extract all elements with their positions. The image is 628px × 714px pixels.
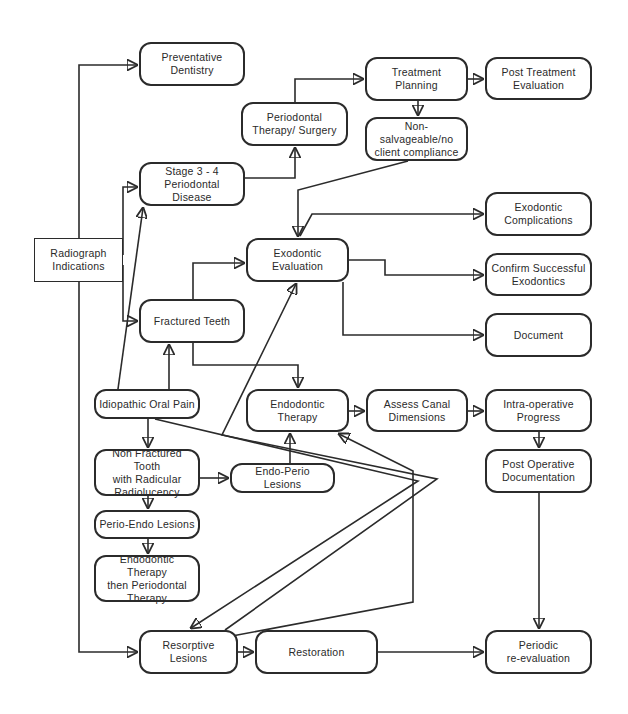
node-resorptive-lesions: Resorptive Lesions xyxy=(139,630,238,674)
node-intra-operative-progress: Intra-operative Progress xyxy=(485,389,592,432)
node-post-treatment-evaluation: Post Treatment Evaluation xyxy=(485,57,592,100)
node-endo-perio-lesions: Endo-Perio Lesions xyxy=(230,463,335,493)
node-radiograph-indications: Radiograph Indications xyxy=(34,238,123,282)
node-assess-canal-dimensions: Assess Canal Dimensions xyxy=(366,389,468,432)
node-preventative-dentistry: Preventative Dentistry xyxy=(139,42,245,86)
node-periodontal-therapy-surgery: Periodontal Therapy/ Surgery xyxy=(241,102,348,146)
dental-radiograph-flowchart: Preventative Dentistry Radiograph Indica… xyxy=(0,0,628,714)
node-non-fractured-tooth: Non Fractured Tooth with Radicular Radio… xyxy=(94,449,200,496)
node-idiopathic-oral-pain: Idiopathic Oral Pain xyxy=(94,389,200,419)
node-perio-endo-lesions: Perio-Endo Lesions xyxy=(94,510,200,539)
node-endodontic-therapy: Endodontic Therapy xyxy=(246,389,349,432)
node-fractured-teeth: Fractured Teeth xyxy=(139,299,245,343)
node-stage-3-4-periodontal-disease: Stage 3 - 4 Periodontal Disease xyxy=(139,162,245,206)
node-confirm-successful-exodontics: Confirm Successful Exodontics xyxy=(485,253,592,296)
node-post-operative-documentation: Post Operative Documentation xyxy=(485,449,592,493)
node-treatment-planning: Treatment Planning xyxy=(365,57,468,101)
node-periodic-re-evaluation: Periodic re-evaluation xyxy=(485,630,592,674)
node-restoration: Restoration xyxy=(255,630,378,674)
node-non-salvageable: Non-salvageable/no client compliance xyxy=(365,117,468,161)
node-endodontic-then-periodontal-therapy: Endodontic Therapy then Periodontal Ther… xyxy=(94,555,200,602)
node-exodontic-evaluation: Exodontic Evaluation xyxy=(246,238,349,282)
node-document: Document xyxy=(485,313,592,357)
node-exodontic-complications: Exodontic Complications xyxy=(485,192,592,236)
